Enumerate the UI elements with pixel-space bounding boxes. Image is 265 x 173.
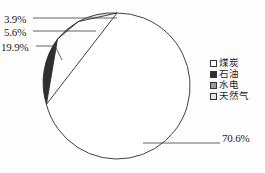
data-label-coal: 70.6% [222,132,249,144]
data-label-hydro: 5.6% [4,26,26,38]
pie-chart-figure: 3.9% 5.6% 19.9% 70.6% 煤炭 石油 水电 天然气 [0,0,265,173]
pie-slice-coal[interactable] [46,13,190,159]
pie-slice-hydro[interactable] [57,22,78,39]
legend-label-natural-gas: 天然气 [219,91,249,101]
legend-swatch-oil [210,71,217,78]
legend-swatch-natural-gas [210,93,217,100]
chart-legend: 煤炭 石油 水电 天然气 [210,58,262,102]
legend-item-natural-gas[interactable]: 天然气 [210,91,262,102]
legend-label-oil: 石油 [219,69,239,79]
legend-label-hydro: 水电 [219,80,239,90]
legend-swatch-coal [210,60,217,67]
legend-item-hydro[interactable]: 水电 [210,80,262,91]
data-label-natural-gas: 3.9% [4,13,26,25]
legend-item-oil[interactable]: 石油 [210,69,262,80]
legend-swatch-hydro [210,82,217,89]
legend-label-coal: 煤炭 [219,58,239,68]
data-label-oil: 19.9% [1,41,28,53]
legend-item-coal[interactable]: 煤炭 [210,58,262,69]
